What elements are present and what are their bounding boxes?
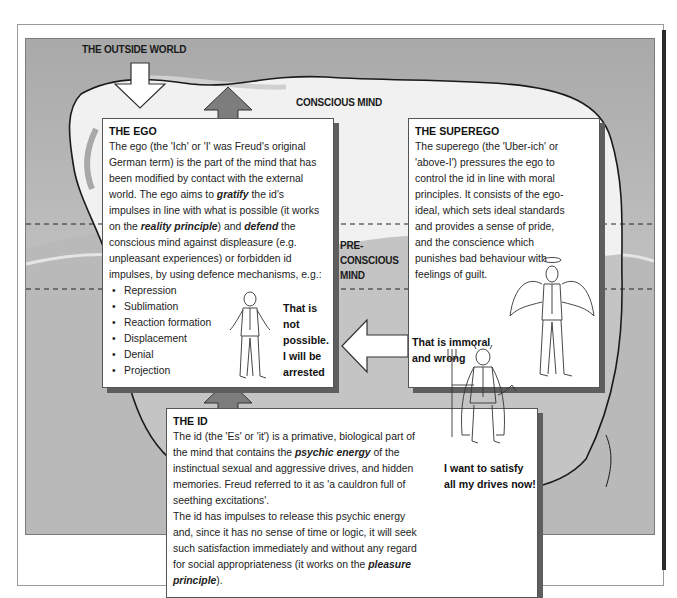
devil-man-icon: [442, 345, 520, 449]
outside-world-label: THE OUTSIDE WORLD: [82, 44, 186, 55]
shrugging-man-icon: [228, 290, 272, 382]
left-arrow-icon: [340, 318, 410, 374]
down-arrow-icon: [112, 62, 168, 110]
preconscious-mind-label: PRE- CONSCIOUS MIND: [340, 238, 399, 283]
list-item: Repression: [124, 283, 327, 299]
id-speech: I want to satisfy all my drives now!: [444, 460, 536, 492]
conscious-mind-label: CONSCIOUS MIND: [296, 97, 382, 108]
angel-man-icon: [508, 256, 596, 382]
frame-shadow: [662, 30, 666, 570]
ego-description: The ego (the 'Ich' or 'I' was Freud's or…: [109, 139, 327, 283]
id-description: The id (the 'Es' or 'it') is a primative…: [173, 429, 425, 589]
superego-title: THE SUPEREGO: [415, 123, 593, 139]
ego-title: THE EGO: [109, 123, 327, 139]
ego-speech: That is not possible. I will be arrested: [283, 300, 329, 380]
